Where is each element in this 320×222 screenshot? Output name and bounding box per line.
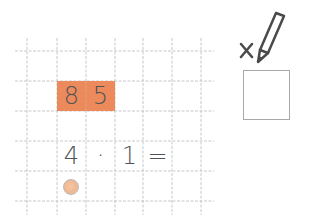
grid-overlay-line <box>0 0 220 222</box>
equals-sign: = <box>143 144 172 168</box>
factor-left: 4 <box>57 144 86 168</box>
x-pencil-icon <box>236 10 296 66</box>
digit-ones: 5 <box>86 84 115 108</box>
factor-right: 1 <box>115 144 144 168</box>
multiply-operator: · <box>86 144 115 168</box>
answer-box[interactable] <box>243 70 290 120</box>
digit-tens: 8 <box>57 84 86 108</box>
marker-circle <box>63 179 79 195</box>
